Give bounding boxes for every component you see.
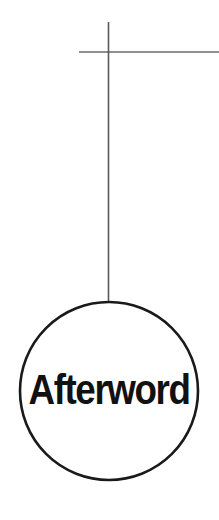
afterword-node-label: Afterword [29, 366, 190, 413]
page-root: Afterword [0, 0, 219, 520]
afterword-diagram: Afterword [0, 0, 219, 520]
